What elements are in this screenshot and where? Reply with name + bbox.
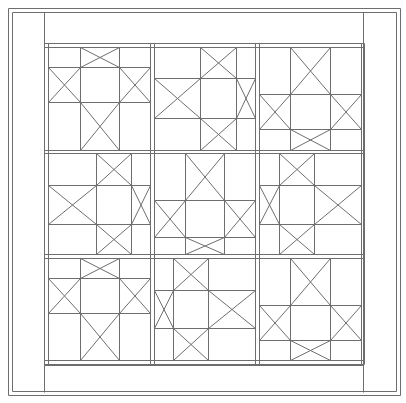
quilt-diagram: [0, 0, 406, 403]
sashing-grid: [45, 44, 365, 365]
block-r1c2: [155, 48, 256, 151]
star-blocks: [49, 48, 362, 361]
block-r1c1: [49, 48, 151, 151]
block-r2c1: [49, 154, 151, 255]
block-r2c2: [155, 154, 256, 255]
inner-border: [45, 13, 364, 393]
quilt-drawing: [0, 0, 406, 403]
frame-inner-line: [13, 13, 397, 392]
block-r2c3: [260, 154, 362, 255]
block-r1c3: [260, 48, 362, 151]
block-r3c2: [155, 259, 256, 361]
block-r3c3: [260, 259, 362, 361]
block-r3c1: [49, 259, 151, 361]
